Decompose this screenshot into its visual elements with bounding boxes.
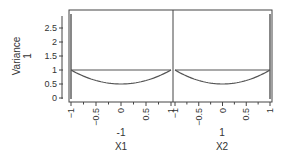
x-tick-label: −1 bbox=[66, 108, 76, 118]
y-tick-label: 1 bbox=[52, 65, 57, 75]
x1-axis-title: X1 bbox=[115, 141, 128, 152]
x-axis-x2: −1−0.500.51 bbox=[170, 102, 275, 126]
x-axis-x1: −1−0.500.51 bbox=[66, 102, 176, 126]
variance-profiler-chart: Variance 1 00.511.522.5 −1−0.500.51−1−0.… bbox=[0, 0, 286, 162]
y-axis-current-value: 1 bbox=[22, 53, 33, 59]
x-tick-label: −0.5 bbox=[194, 108, 204, 126]
x-tick-label: 0.5 bbox=[241, 108, 251, 121]
plot-panels: −1−0.500.51−1−0.500.51 bbox=[66, 10, 275, 126]
y-tick-label: 2 bbox=[52, 37, 57, 47]
x-tick-label: 1 bbox=[265, 108, 275, 113]
x-tick-label: 0 bbox=[218, 108, 228, 113]
x1-current-value[interactable]: -1 bbox=[117, 127, 126, 138]
x-tick-label: 0.5 bbox=[141, 108, 151, 121]
y-tick-label: 0 bbox=[52, 93, 57, 103]
y-tick-label: 0.5 bbox=[44, 79, 57, 89]
y-tick-label: 1.5 bbox=[44, 51, 57, 61]
y-tick-label: 2.5 bbox=[44, 23, 57, 33]
panel-x2: −1−0.500.51 bbox=[170, 14, 275, 126]
x-tick-label: −0.5 bbox=[91, 108, 101, 126]
x2-axis-title: X2 bbox=[216, 141, 229, 152]
panel-x1: −1−0.500.51 bbox=[66, 14, 176, 126]
plot-frame bbox=[69, 10, 272, 102]
y-axis-title: Variance bbox=[11, 36, 22, 75]
variance-curve bbox=[175, 70, 270, 84]
variance-curve bbox=[71, 70, 171, 84]
x-tick-label: −1 bbox=[170, 108, 180, 118]
x2-current-value[interactable]: 1 bbox=[219, 127, 225, 138]
y-axis: 00.511.522.5 bbox=[44, 16, 63, 103]
x-tick-label: 0 bbox=[116, 108, 126, 113]
